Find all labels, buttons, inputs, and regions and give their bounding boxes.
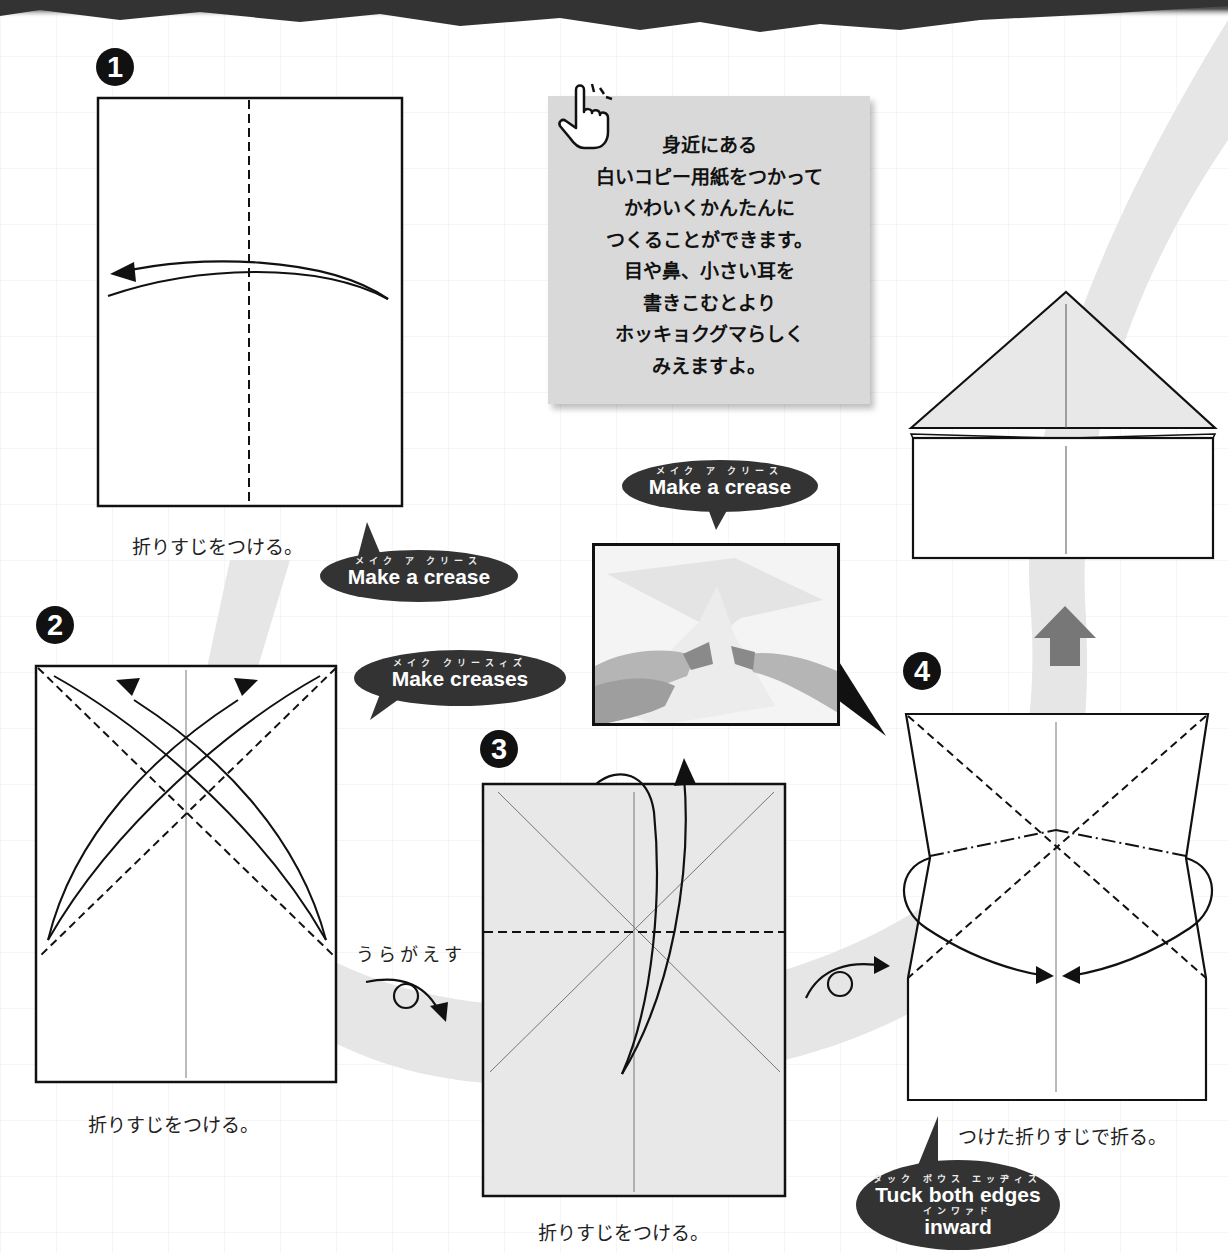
- bubble-ruby: メイク ア クリース: [622, 460, 818, 476]
- bubble-text: Make creases: [354, 668, 566, 690]
- step-2-number: 2: [36, 606, 74, 644]
- step-3-diagram: [478, 752, 788, 1212]
- arrow-head-icon: [674, 758, 696, 786]
- hands-folding-paper-image: [595, 546, 840, 726]
- note-line: ホッキョクグマらしく: [548, 319, 870, 351]
- step-1-number: 1: [96, 48, 134, 86]
- step-4-caption: つけた折りすじで折る。: [958, 1122, 1167, 1149]
- bubble-text: inward: [856, 1216, 1060, 1238]
- step-1-bubble: メイク ア クリース Make a crease: [320, 550, 518, 602]
- step-2-caption: 折りすじをつける。: [88, 1110, 259, 1137]
- intro-note-text: 身近にある 白いコピー用紙をつかって かわいくかんたんに つくることができます。…: [548, 130, 870, 382]
- bubble-text: Make a crease: [622, 476, 818, 498]
- step-4-diagram: [896, 708, 1228, 1104]
- note-line: 白いコピー用紙をつかって: [548, 162, 870, 194]
- turn-over-icon: [362, 976, 452, 1024]
- note-line: みえますよ。: [548, 351, 870, 383]
- arrow-up-icon: [1032, 604, 1098, 668]
- step-2-diagram: [34, 664, 340, 1086]
- note-line: 身近にある: [548, 130, 870, 162]
- note-line: 書きこむとより: [548, 288, 870, 320]
- bubble-ruby: メイク クリースィズ: [354, 650, 566, 668]
- bubble-ruby: メイク ア クリース: [320, 550, 518, 566]
- intro-note: 身近にある 白いコピー用紙をつかって かわいくかんたんに つくることができます。…: [548, 96, 870, 404]
- bubble-pointer: [838, 640, 890, 736]
- note-line: つくることができます。: [548, 225, 870, 257]
- step-1-caption: 折りすじをつける。: [132, 532, 303, 559]
- note-line: 目や鼻、小さい耳を: [548, 256, 870, 288]
- step-4-number: 4: [903, 652, 941, 690]
- step-1-diagram: [96, 96, 406, 512]
- result-diagram: [905, 288, 1225, 568]
- step-4-bubble: タック ボウス エッヂィズ Tuck both edges インワァド inwa…: [856, 1160, 1060, 1250]
- step-3-caption: 折りすじをつける。: [538, 1218, 709, 1245]
- step-3-bubble: メイク ア クリース Make a crease: [622, 460, 818, 512]
- turn-over-label: うらがえす: [356, 940, 466, 966]
- bubble-tail: [370, 694, 410, 724]
- bubble-text: Tuck both edges: [856, 1184, 1060, 1206]
- note-line: かわいくかんたんに: [548, 193, 870, 225]
- turn-over-icon: [800, 952, 892, 1002]
- bubble-ruby: タック ボウス エッヂィズ: [856, 1160, 1060, 1184]
- bubble-text: Make a crease: [320, 566, 518, 588]
- folding-photo: [592, 543, 840, 726]
